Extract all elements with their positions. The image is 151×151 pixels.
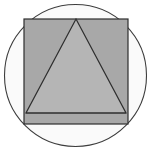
geometric-figure-svg <box>0 0 151 151</box>
figure-canvas <box>0 0 151 151</box>
